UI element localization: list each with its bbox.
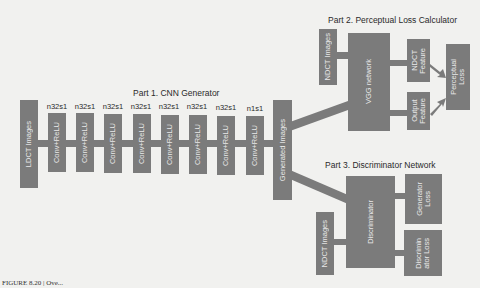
output-feature-block: Output Feature — [407, 92, 430, 130]
conv-relu-label: Conv+ReLU — [81, 122, 89, 163]
ldct-images-label: LDCT Images — [25, 121, 33, 167]
generated-images-label: Generated Images — [279, 119, 287, 181]
conv-relu-block: Conv+ReLU — [189, 115, 207, 174]
part1-title: Part 1. CNN Generator — [133, 88, 219, 98]
conv-relu-block: Conv+ReLU — [161, 115, 179, 174]
generator-loss-label: Generator Loss — [416, 182, 432, 216]
generated-images-block: Generated Images — [273, 100, 292, 200]
output-feature-label: Output Feature — [411, 98, 427, 124]
conv-relu-label: Conv+ReLU — [251, 125, 259, 166]
conv-relu-block: Conv+ReLU — [217, 116, 235, 175]
discriminator-loss-block: Discrimin ator Loss — [404, 230, 442, 276]
conv-relu-block: Conv+ReLU — [48, 113, 66, 172]
ndct-images-label: NDCT Images — [321, 220, 329, 267]
layer-param: n32s1 — [75, 102, 95, 111]
layer-param: n32s1 — [187, 102, 207, 111]
ndct-images-label: NDCT Images — [324, 33, 332, 80]
ndct-feature-block: NDCT Feature — [407, 39, 430, 82]
conv-relu-label: Conv+ReLU — [53, 122, 61, 163]
generator-loss-block: Generator Loss — [405, 174, 442, 224]
ndct-feature-label: NDCT Feature — [411, 48, 427, 74]
conv-relu-block: Conv+ReLU — [76, 113, 94, 172]
perceptual-loss-block: Perceptual Loss — [446, 44, 470, 110]
conv-relu-block: Conv+ReLU — [104, 114, 122, 173]
conv-relu-block: Conv+ReLU — [246, 116, 264, 175]
figure-caption: FIGURE 8.20 | Ove... — [2, 279, 63, 287]
layer-param: n32s1 — [216, 103, 236, 112]
layer-param: n32s1 — [159, 102, 179, 111]
conv-relu-block: Conv+ReLU — [133, 114, 151, 173]
vgg-network-label: VGG network — [365, 59, 373, 104]
part2-title: Part 2. Perceptual Loss Calculator — [328, 15, 457, 25]
layer-param: n1s1 — [247, 104, 263, 113]
part3-ndct-images-block: NDCT Images — [316, 212, 334, 275]
discriminator-loss-label: Discrimin ator Loss — [415, 238, 431, 269]
layer-param: n32s1 — [47, 102, 67, 111]
part2-ndct-images-block: NDCT Images — [319, 29, 337, 85]
conv-relu-label: Conv+ReLU — [166, 124, 174, 165]
discriminator-block: Discriminator — [346, 176, 395, 268]
discriminator-label: Discriminator — [367, 200, 375, 244]
conv-relu-label: Conv+ReLU — [222, 125, 230, 166]
diagram-canvas: Part 1. CNN Generator LDCT Images n32s1 … — [0, 0, 480, 288]
part3-title: Part 3. Discriminator Network — [325, 160, 436, 170]
perceptual-loss-label: Perceptual Loss — [450, 59, 466, 95]
layer-param: n32s1 — [103, 102, 123, 111]
conv-relu-label: Conv+ReLU — [109, 123, 117, 164]
layer-param: n32s1 — [131, 102, 151, 111]
conv-relu-label: Conv+ReLU — [194, 124, 202, 165]
conv-relu-label: Conv+ReLU — [138, 123, 146, 164]
ldct-images-block: LDCT Images — [20, 100, 38, 188]
vgg-network-block: VGG network — [348, 33, 390, 131]
